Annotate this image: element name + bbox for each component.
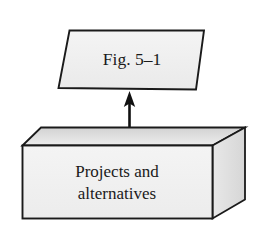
base-box-label-line2: alternatives bbox=[78, 184, 156, 203]
diagram-svg: Fig. 5–1 Projects and alternatives bbox=[0, 0, 265, 228]
base-box-front-face bbox=[23, 146, 213, 219]
base-box-top-face bbox=[23, 128, 246, 146]
base-box-label-line1: Projects and bbox=[75, 162, 159, 181]
fig-label-text: Fig. 5–1 bbox=[103, 49, 161, 69]
fig-label-node[interactable]: Fig. 5–1 bbox=[59, 31, 205, 90]
diagram-canvas: Fig. 5–1 Projects and alternatives bbox=[0, 0, 265, 228]
base-box-node[interactable]: Projects and alternatives bbox=[23, 128, 246, 219]
